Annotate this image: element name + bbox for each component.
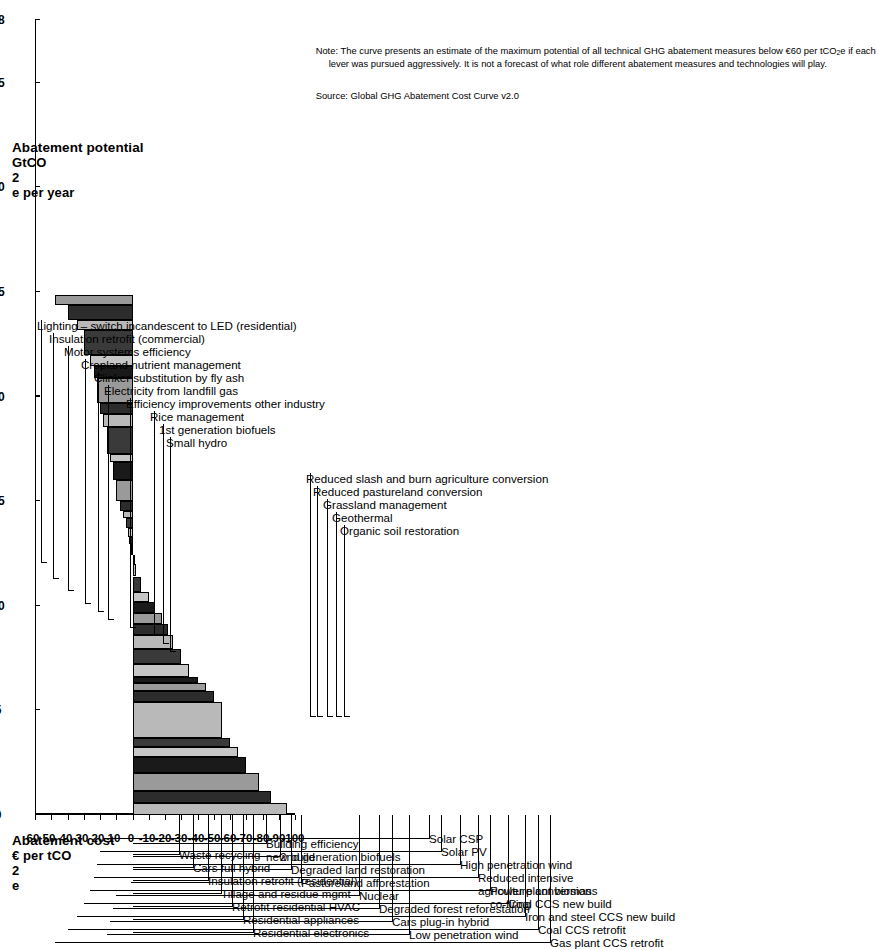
- callout-label: Cropland nutrient management: [81, 359, 241, 372]
- bar-retrofit-residential-hvac: [133, 613, 162, 623]
- leader-segment: [344, 525, 345, 718]
- potential-tick: [35, 709, 40, 710]
- leader-segment: [53, 578, 59, 579]
- leader-segment: [327, 717, 333, 718]
- cost-tick: [149, 815, 150, 820]
- bar-coal-ccs-retrofit: [68, 305, 133, 321]
- callout-label: Pastureland afforestation: [301, 877, 430, 890]
- potential-tick-label: 35: [0, 76, 12, 90]
- bar-1st-generation-biofuels: [133, 683, 206, 690]
- cost-tick: [246, 815, 247, 820]
- leader-segment: [68, 590, 74, 591]
- leader-segment: [98, 372, 99, 612]
- cost-tick: [133, 815, 134, 820]
- leader-segment: [317, 486, 318, 718]
- callout-label: Electricity from landfill gas: [104, 385, 238, 398]
- callout-label: Motor systems efficiency: [64, 346, 191, 359]
- callout-label: Low penetration wind: [409, 929, 519, 942]
- leader-segment: [68, 346, 69, 591]
- potential-tick: [35, 186, 40, 187]
- potential-tick: [35, 500, 40, 501]
- leader-segment: [108, 619, 114, 620]
- callout-label: Insulation retrofit (commercial): [49, 333, 205, 346]
- footnote-note-text: Note: The curve presents an estimate of …: [300, 45, 876, 69]
- callout-label: Residential appliances: [243, 914, 359, 927]
- callout-label: Degraded land restoration: [291, 864, 425, 877]
- callout-label: Tillage and residue mgmt: [221, 888, 351, 901]
- leader-segment: [130, 627, 136, 628]
- leader-segment: [108, 385, 109, 620]
- leader-segment: [133, 932, 254, 933]
- callout-label: High penetration wind: [460, 859, 572, 872]
- cost-tick: [68, 815, 69, 820]
- leader-segment: [317, 717, 323, 718]
- leader-segment: [154, 635, 160, 636]
- leader-segment: [336, 512, 337, 718]
- bar-residential-electronics: [133, 592, 149, 601]
- leader-segment: [310, 473, 311, 718]
- cost-tick: [198, 815, 199, 820]
- leader-segment: [336, 717, 342, 718]
- leader-segment: [327, 499, 328, 718]
- cost-tick: [214, 815, 215, 820]
- bar-insulation-retrofit-residential: [133, 635, 174, 649]
- leader-segment: [85, 603, 91, 604]
- leader-segment: [41, 562, 47, 563]
- bar-low-penetration-wind: [107, 427, 133, 454]
- leader-segment: [133, 906, 232, 907]
- leader-segment: [133, 893, 221, 894]
- cost-tick: [181, 815, 182, 820]
- leader-segment: [170, 437, 171, 653]
- bar-2nd-generation-biofuels: [133, 564, 136, 577]
- callout-label: Retrofit residential HVAC: [232, 901, 360, 914]
- callout-label: Residential electronics: [253, 927, 369, 940]
- leader-segment: [310, 717, 316, 718]
- bar-rice-management: [133, 691, 214, 703]
- cost-tick: [35, 815, 36, 820]
- bar-building-efficiency-new-build: [133, 577, 141, 593]
- cost-tick: [263, 815, 264, 820]
- callout-label: Coal CCS retrofit: [538, 924, 626, 937]
- callout-label: Rice management: [150, 411, 244, 424]
- potential-tick-label: 5: [0, 703, 12, 717]
- figure-footnote: Note: The curve presents an estimate of …: [300, 35, 876, 113]
- cost-tick: [116, 815, 117, 820]
- potential-tick: [35, 605, 40, 606]
- leader-segment: [154, 411, 155, 636]
- cost-tick: [51, 815, 52, 820]
- potential-tick-label: 15: [0, 494, 12, 508]
- bar-small-hydro: [133, 677, 198, 683]
- potential-tick: [35, 291, 40, 292]
- bar-electricity-from-landfill-gas: [133, 738, 231, 747]
- leader-segment: [41, 320, 42, 563]
- leader-segment: [163, 424, 164, 644]
- callout-label: Lighting – switch incandescent to LED (r…: [37, 320, 297, 333]
- callout-label: Nuclear: [359, 890, 399, 903]
- callout-label: Solar PV: [441, 846, 487, 859]
- bar-cars-plug-in-hybrid: [110, 454, 133, 462]
- callout-label: Gas plant CCS retrofit: [550, 937, 663, 950]
- callout-label: Small hydro: [166, 437, 227, 450]
- bar-degraded-land-restoration: [133, 555, 135, 564]
- potential-tick-label: 30: [0, 180, 12, 194]
- potential-tick: [35, 82, 40, 83]
- leader-segment: [133, 854, 180, 855]
- leader-segment: [53, 333, 54, 579]
- callout-label: Iron and steel CCS new build: [525, 911, 675, 924]
- leader-segment: [163, 643, 169, 644]
- cost-tick: [84, 815, 85, 820]
- bar-pastureland-afforestation: [131, 544, 133, 554]
- cost-tick: [165, 815, 166, 820]
- potential-tick-label: 20: [0, 390, 12, 404]
- bar-insulation-retrofit-commercial: [133, 791, 271, 804]
- callout-label: Cars full hybrid: [193, 862, 270, 875]
- leader-segment: [55, 942, 551, 943]
- bar-clinker-substitution-by-fly-ash: [133, 747, 239, 757]
- leader-segment: [130, 398, 131, 628]
- potential-tick-label: 25: [0, 285, 12, 299]
- callout-label: Organic soil restoration: [340, 525, 459, 538]
- potential-tick-label: 10: [0, 599, 12, 613]
- bar-lighting-switch-incandescent-to-led-residential: [133, 804, 287, 816]
- leader-segment: [98, 611, 104, 612]
